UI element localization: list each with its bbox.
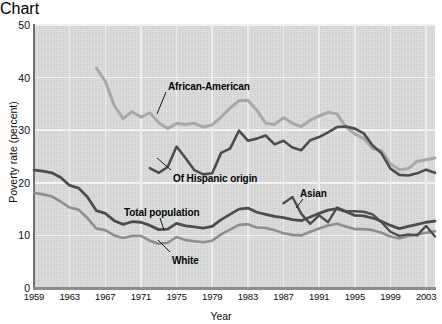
series-layer: [0, 18, 442, 324]
series-label-african-american: African-American: [168, 81, 250, 92]
series-line-african-american: [96, 68, 435, 170]
series-line-of-hispanic-origin: [150, 127, 435, 176]
series-label-white: White: [172, 255, 199, 266]
poverty-rate-chart: 01020304050 1959196319671971197519791983…: [0, 18, 442, 324]
series-label-of-hispanic-origin: Of Hispanic origin: [173, 173, 257, 184]
series-label-asian: Asian: [300, 188, 327, 199]
leader-line-african-american: [157, 92, 166, 114]
series-label-total-population: Total population: [124, 207, 199, 218]
